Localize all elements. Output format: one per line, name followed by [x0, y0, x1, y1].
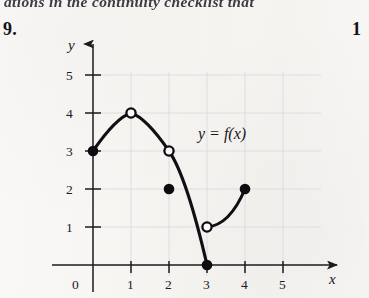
- closed-point-4-2: [240, 184, 251, 195]
- ytick-label-1: 1: [66, 220, 73, 235]
- xtick-label-0: 0: [72, 277, 79, 292]
- xtick-label-3: 3: [203, 277, 210, 292]
- xtick-label-2: 2: [165, 277, 172, 292]
- ytick-label-2: 2: [66, 182, 73, 197]
- open-point-2-3: [164, 146, 173, 155]
- x-axis-label: x: [328, 271, 336, 287]
- axes: [52, 44, 337, 292]
- xtick-label-4: 4: [241, 277, 248, 292]
- xtick-label-1: 1: [127, 277, 134, 292]
- open-point-3-1: [202, 222, 211, 231]
- closed-point-0-3: [88, 146, 99, 157]
- graph-svg: y x 5 4 3 2 1 0 1 2 3 4 5: [0, 0, 369, 298]
- closed-point-2-2: [164, 184, 175, 195]
- x-tick-labels: 0 1 2 3 4 5: [72, 277, 286, 292]
- tick-marks: [85, 75, 283, 273]
- curve-branch-2: [207, 189, 245, 227]
- y-axis-label: y: [66, 37, 75, 53]
- ytick-label-3: 3: [66, 144, 73, 159]
- curve-equation-label: y = f(x): [196, 125, 246, 143]
- ytick-label-5: 5: [66, 68, 73, 83]
- xtick-label-5: 5: [279, 277, 286, 292]
- grid-lines: [93, 72, 321, 276]
- function-graph-figure: y x 5 4 3 2 1 0 1 2 3 4 5: [0, 0, 369, 298]
- ytick-label-4: 4: [66, 106, 73, 121]
- open-point-1-4: [126, 108, 135, 117]
- y-tick-labels: 5 4 3 2 1: [66, 68, 73, 235]
- closed-point-3-0: [202, 260, 213, 271]
- scanned-page: ations in the continuity checklist that …: [0, 0, 369, 298]
